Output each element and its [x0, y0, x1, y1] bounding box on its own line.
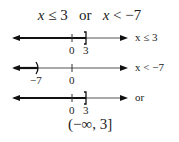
number-line-1 [12, 32, 128, 44]
tick-label: 0 [69, 104, 75, 116]
line-2-label: x < −7 [135, 61, 164, 73]
interval-notation: (−∞, 3] [68, 116, 112, 133]
line-1-label: x ≤ 3 [135, 31, 158, 43]
number-line-2 [12, 62, 128, 74]
line-3-label: or [135, 91, 144, 103]
tick-label: 3 [83, 44, 89, 56]
tick-label: −7 [30, 74, 42, 86]
tick-label: 0 [69, 44, 75, 56]
number-line-3 [12, 92, 128, 104]
tick-label: 3 [83, 104, 89, 116]
tick-label: 0 [69, 74, 75, 86]
